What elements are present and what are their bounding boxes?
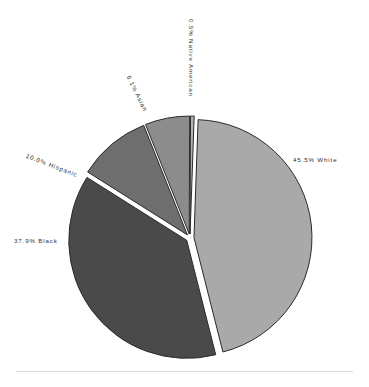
pie-slices-group <box>69 116 312 358</box>
pie-chart-figure: 45.5% White37.9% Black10.0% Hispanic6.1%… <box>0 0 369 387</box>
pie-chart-canvas: 45.5% White37.9% Black10.0% Hispanic6.1%… <box>0 0 369 387</box>
footer-divider <box>16 371 353 372</box>
pie-label-black: 37.9% Black <box>14 237 58 244</box>
pie-label-white: 45.5% White <box>293 156 337 163</box>
pie-label-asian: 6.1% Asian <box>126 74 150 113</box>
pie-slice-white <box>194 120 312 352</box>
pie-label-hispanic: 10.0% Hispanic <box>25 152 79 178</box>
pie-label-native-american: 0.5% Native American <box>188 19 195 97</box>
pie-slice-native-american <box>190 116 194 234</box>
